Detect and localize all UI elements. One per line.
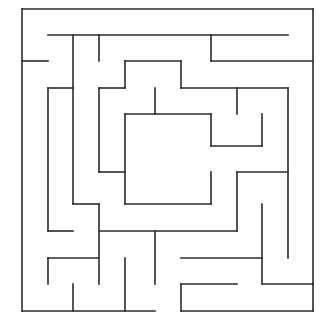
maze-board <box>0 0 332 332</box>
